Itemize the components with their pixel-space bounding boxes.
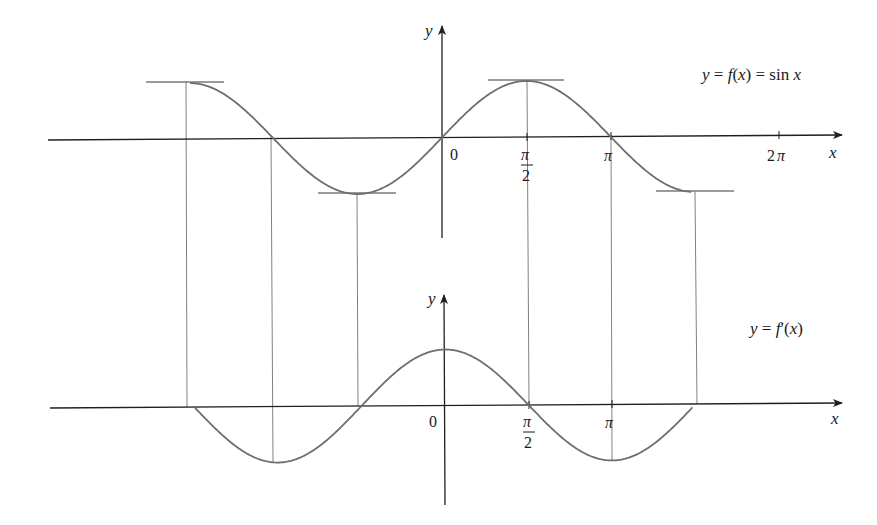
- guide-line-neg-pi-2: [357, 193, 358, 406]
- bottom-x-axis: [50, 403, 842, 408]
- top-curve-label: y = f(x) = sin x: [700, 65, 801, 84]
- top-tick-pi-over-2-denominator: 2: [522, 167, 530, 184]
- bottom-graph: y x 0 π 2 π y = f′(x): [50, 289, 842, 505]
- top-y-axis-label: y: [423, 21, 433, 40]
- guide-line-pi: [611, 135, 612, 460]
- bottom-y-axis: [444, 295, 445, 505]
- bottom-tick-pi-label: π: [605, 414, 614, 431]
- bottom-curve-label: y = f′(x): [748, 319, 803, 338]
- top-x-axis-label: x: [828, 143, 837, 162]
- top-tick-2pi-label: 2π: [767, 147, 786, 164]
- figure-canvas: y x 0 π 2 π 2π y = f(x) = sin x y x 0 π …: [0, 0, 877, 525]
- bottom-tick-pi-over-2-numerator: π: [523, 413, 532, 430]
- guide-line-pi-2: [527, 80, 529, 405]
- guide-line-neg-3pi-2: [186, 81, 187, 407]
- bottom-y-axis-label: y: [426, 289, 436, 308]
- guide-line-3pi-2: [695, 191, 697, 404]
- top-tick-pi-over-2-numerator: π: [521, 146, 530, 163]
- bottom-x-axis-label: x: [830, 409, 839, 428]
- guide-line-neg-pi: [271, 137, 273, 462]
- bottom-origin-label: 0: [429, 413, 437, 430]
- top-graph: y x 0 π 2 π 2π y = f(x) = sin x: [48, 21, 842, 238]
- top-tick-pi-label: π: [604, 147, 613, 164]
- bottom-tick-pi-over-2-denominator: 2: [524, 434, 532, 451]
- top-origin-label: 0: [450, 146, 458, 163]
- top-x-axis: [48, 135, 842, 140]
